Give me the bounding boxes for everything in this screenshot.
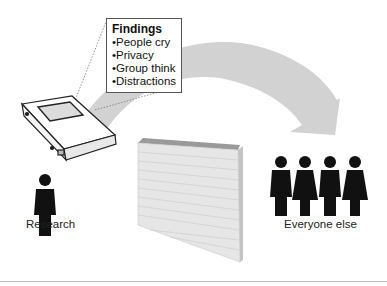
findings-item: Privacy [112,49,176,62]
divider [0,281,387,282]
brick-wall-icon [138,138,243,262]
group-people [270,156,368,216]
diagram-graphics [0,0,387,286]
person-icon [270,156,292,216]
findings-item: Distractions [112,75,176,88]
findings-title: Findings [112,23,176,36]
findings-item: People cry [112,36,176,49]
person-icon [292,156,318,216]
findings-callout: Findings People cry Privacy Group think … [106,18,182,93]
everyone-else-label: Everyone else [284,218,357,230]
person-icon [319,156,341,216]
person-icon [342,156,368,216]
diagram: Findings People cry Privacy Group think … [0,0,387,286]
findings-item: Group think [112,62,176,75]
research-label: Research [26,218,75,230]
